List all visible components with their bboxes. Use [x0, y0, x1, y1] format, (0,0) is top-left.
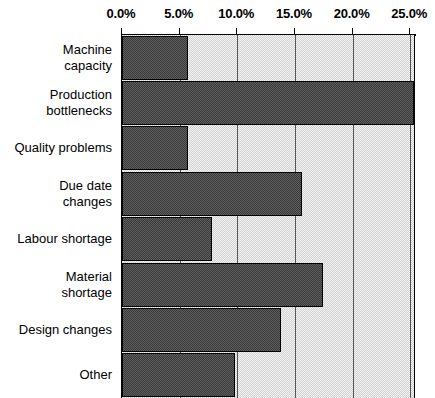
- bar: [122, 308, 281, 352]
- x-axis-tick-label: 0.0%: [107, 6, 136, 22]
- plot-area: [121, 35, 415, 398]
- bar: [122, 353, 235, 397]
- x-axis-tick-mark: [236, 28, 237, 35]
- bar-row: [122, 217, 414, 262]
- bar-row: [122, 171, 414, 216]
- bar: [122, 36, 188, 80]
- y-axis-category-label: Material shortage: [61, 269, 112, 301]
- bar-row: [122, 307, 414, 352]
- bar: [122, 263, 323, 307]
- y-axis-category-label-group: Machine capacityProduction bottlenecksQu…: [0, 35, 118, 398]
- x-axis-tick-label-group: 0.0%5.0%10.0%15.0%20.0%25.0%: [0, 6, 435, 24]
- x-axis-tick-label: 10.0%: [218, 6, 254, 22]
- x-axis-tick-label: 15.0%: [276, 6, 312, 22]
- x-axis-tick-mark: [352, 28, 353, 35]
- x-axis-tick-mark: [409, 28, 410, 35]
- x-axis-tick-mark: [294, 28, 295, 35]
- y-axis-category-label: Due date changes: [59, 178, 112, 210]
- y-axis-category-label: Labour shortage: [17, 231, 112, 247]
- y-axis-category-label: Production bottlenecks: [46, 87, 112, 119]
- bar: [122, 217, 212, 261]
- bar-row: [122, 353, 414, 398]
- y-axis-category-label: Other: [79, 367, 112, 383]
- bar-row: [122, 262, 414, 307]
- bar-row: [122, 80, 414, 125]
- bar: [122, 172, 302, 216]
- y-axis-category-label: Machine capacity: [63, 42, 112, 74]
- bar-row: [122, 35, 414, 80]
- bar-chart: 0.0%5.0%10.0%15.0%20.0%25.0% Machine cap…: [0, 0, 435, 398]
- x-axis-tick-label: 5.0%: [164, 6, 193, 22]
- y-axis-category-label: Quality problems: [14, 140, 112, 156]
- x-axis-tick-label: 25.0%: [391, 6, 427, 22]
- x-axis-tick-mark: [121, 28, 122, 35]
- bar: [122, 126, 188, 170]
- y-axis-category-label: Design changes: [19, 322, 112, 338]
- bar: [122, 81, 414, 125]
- x-axis-tick-mark: [179, 28, 180, 35]
- bar-row: [122, 126, 414, 171]
- x-axis-tick-label: 20.0%: [334, 6, 370, 22]
